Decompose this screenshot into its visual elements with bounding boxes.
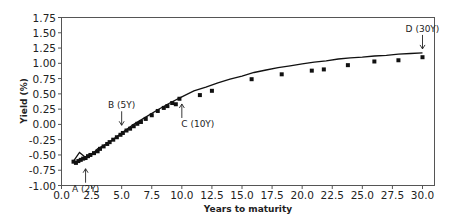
data-point (174, 102, 178, 106)
data-point (322, 67, 326, 71)
x-tick-label: 30.0 (411, 189, 434, 201)
data-point (170, 101, 174, 105)
data-point (139, 120, 143, 124)
y-tick-label: 1.25 (33, 42, 56, 54)
data-point (128, 127, 132, 131)
yield-curve-chart: 1.751.501.251.000.750.500.250.00-0.25-0.… (0, 0, 453, 221)
data-point (98, 147, 102, 151)
annotation-label: B (5Y) (108, 100, 135, 110)
x-tick-label: 17.5 (260, 189, 283, 201)
x-tick-label: 25.0 (351, 189, 374, 201)
y-tick-label: 1.75 (33, 12, 56, 24)
data-point (210, 89, 214, 93)
data-point (88, 153, 92, 157)
x-tick-label: 20.0 (290, 189, 313, 201)
data-point (162, 106, 166, 110)
y-tick-label: 0.50 (33, 88, 56, 100)
x-tick-label: 12.5 (200, 189, 223, 201)
data-point (132, 124, 136, 128)
data-point (121, 131, 125, 135)
data-point (421, 55, 425, 59)
data-point (310, 69, 314, 73)
data-point (124, 129, 128, 133)
data-point (250, 77, 254, 81)
x-axis-ticks: 0.02.55.07.510.012.515.017.520.022.525.0… (53, 186, 434, 202)
x-tick-label: 27.5 (381, 189, 404, 201)
annotation-label: C (10Y) (181, 119, 214, 129)
data-point (165, 104, 169, 108)
data-point (177, 97, 181, 101)
data-point (111, 138, 115, 142)
data-point (115, 135, 119, 139)
x-tick-label: 0.0 (53, 189, 70, 201)
data-point (144, 117, 148, 121)
x-tick-label: 15.0 (230, 189, 253, 201)
data-point (108, 140, 112, 144)
x-axis-label: Years to maturity (203, 204, 292, 214)
y-tick-label: 0.75 (33, 73, 56, 85)
y-tick-label: -0.50 (29, 149, 56, 161)
x-tick-label: 5.0 (113, 189, 130, 201)
y-tick-label: -1.00 (29, 180, 56, 192)
data-point (92, 151, 96, 155)
annotation-label: D (30Y) (406, 24, 440, 34)
y-tick-label: -0.75 (29, 164, 56, 176)
data-point (346, 63, 350, 67)
y-tick-label: 1.50 (33, 27, 56, 39)
y-tick-label: -0.25 (29, 134, 56, 146)
maturity-annotations: A (2Y)B (5Y)C (10Y)D (30Y) (72, 24, 439, 194)
data-point (135, 122, 139, 126)
data-point (150, 113, 154, 117)
data-point (198, 93, 202, 97)
x-tick-label: 10.0 (170, 189, 193, 201)
y-tick-label: 0.25 (33, 103, 56, 115)
data-point (396, 58, 400, 62)
annotation-label: A (2Y) (72, 184, 99, 194)
data-point (372, 59, 376, 63)
y-axis-label: Yield (%) (19, 78, 29, 125)
y-axis-ticks: 1.751.501.251.000.750.500.250.00-0.25-0.… (29, 12, 62, 192)
x-tick-label: 22.5 (321, 189, 344, 201)
x-tick-label: 7.5 (143, 189, 160, 201)
y-tick-label: 1.00 (33, 57, 56, 69)
data-point (102, 144, 106, 148)
data-point (280, 72, 284, 76)
data-point (156, 109, 160, 113)
y-tick-label: 0.00 (33, 118, 56, 130)
